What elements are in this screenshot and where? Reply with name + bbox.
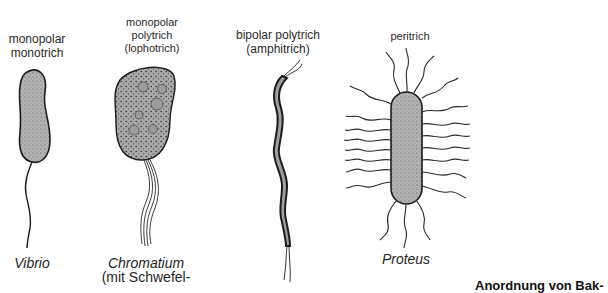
example-chromatium-note: (mit Schwefel- xyxy=(92,270,200,285)
example-proteus: Proteus xyxy=(366,252,446,267)
sulfur-granule xyxy=(151,98,163,110)
sulfur-granule xyxy=(129,125,139,135)
example-vibrio: Vibrio xyxy=(0,256,64,271)
vibrio-flagellum xyxy=(25,162,32,248)
sulfur-granule xyxy=(138,82,148,92)
amphitrich-cell xyxy=(274,76,290,246)
sulfur-granule xyxy=(149,125,158,134)
chromatium-flagella-tuft xyxy=(141,160,159,246)
sulfur-granule xyxy=(158,85,167,94)
bacteria-illustrations xyxy=(0,0,608,293)
chromatium-cell xyxy=(115,67,175,160)
figure-caption: Anordnung von Bak- xyxy=(475,278,604,293)
proteus-cell xyxy=(391,92,422,204)
sulfur-granule xyxy=(135,111,143,119)
amphitrich-flagella xyxy=(284,60,302,282)
vibrio-cell xyxy=(19,70,50,162)
